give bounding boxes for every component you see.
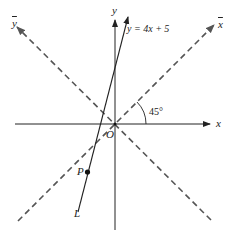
y-bar-label: y (12, 18, 17, 29)
line-equation-label: y = 4x + 5 (127, 24, 169, 34)
line-L-label: L (74, 208, 80, 219)
x-bar-label: x (218, 19, 223, 30)
x-axis-label: x (216, 118, 221, 129)
diagram-canvas (0, 0, 244, 239)
angle-arc (137, 102, 146, 124)
origin-point (114, 123, 117, 126)
rotated-axes-diagram: y x x y O y = 4x + 5 L P 45° (0, 0, 244, 239)
angle-label: 45° (149, 107, 163, 117)
line-L (78, 17, 128, 212)
y-axis-label: y (112, 5, 117, 16)
origin-label: O (106, 129, 114, 140)
point-P-label: P (77, 166, 84, 177)
point-P (85, 169, 90, 174)
